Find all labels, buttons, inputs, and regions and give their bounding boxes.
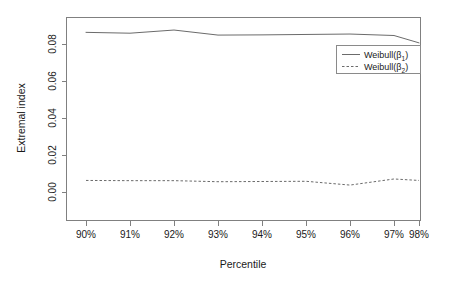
x-axis-tick-labels: 90% 91% 92% 93% 94% 95% 96% 97% 98% — [76, 229, 429, 240]
x-tick-label-5: 95% — [296, 229, 316, 240]
y-axis-title: Extremal index — [15, 83, 27, 153]
y-tick-label-0: 0.00 — [47, 182, 58, 202]
x-tick-label-7: 97% — [384, 229, 404, 240]
y-tick-label-2: 0.04 — [47, 108, 58, 128]
x-tick-label-8: 98% — [409, 229, 429, 240]
y-tick-label-1: 0.02 — [47, 145, 58, 165]
x-tick-label-6: 96% — [340, 229, 360, 240]
series-line-weibull-beta1 — [86, 30, 419, 43]
x-tick-label-3: 93% — [208, 229, 228, 240]
x-tick-label-2: 92% — [164, 229, 184, 240]
series-line-weibull-beta2 — [86, 179, 419, 185]
chart-container: 0.00 0.02 0.04 0.06 0.08 Extremal index … — [0, 0, 460, 289]
y-axis-ticks — [62, 45, 67, 193]
y-tick-label-3: 0.06 — [47, 71, 58, 91]
x-tick-label-1: 91% — [120, 229, 140, 240]
x-axis-title: Percentile — [220, 258, 267, 270]
x-tick-label-0: 90% — [76, 229, 96, 240]
x-tick-label-4: 94% — [252, 229, 272, 240]
chart-legend: Weibull(β1) Weibull(β2) — [337, 46, 421, 74]
y-tick-label-4: 0.08 — [47, 34, 58, 54]
x-axis-ticks — [87, 221, 420, 226]
y-axis-tick-labels: 0.00 0.02 0.04 0.06 0.08 — [47, 34, 58, 202]
extremal-index-line-chart: 0.00 0.02 0.04 0.06 0.08 Extremal index … — [0, 0, 460, 289]
